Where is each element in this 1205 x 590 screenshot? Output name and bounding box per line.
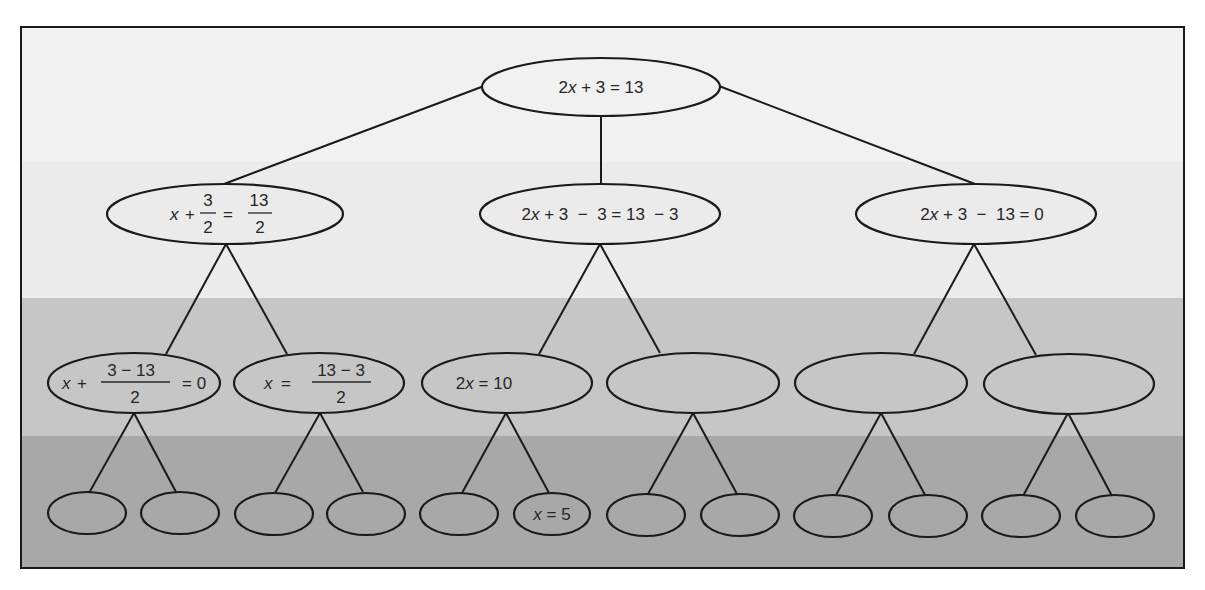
node-level3-6: x = 5 bbox=[514, 493, 590, 535]
node-label-op: = bbox=[281, 374, 291, 393]
node-root: 2x + 3 = 13 bbox=[482, 58, 720, 116]
node-level3-3 bbox=[235, 493, 313, 535]
fraction-denominator: 2 bbox=[203, 218, 212, 237]
fraction-denominator: 2 bbox=[255, 218, 264, 237]
fraction-numerator: 3 bbox=[203, 191, 212, 210]
node-label-suffix: = 0 bbox=[182, 374, 206, 393]
node-level3-9 bbox=[794, 495, 872, 537]
fraction-numerator: 13 − 3 bbox=[317, 361, 365, 380]
node-label-op: + bbox=[185, 205, 195, 224]
node-level3-11 bbox=[982, 495, 1060, 537]
node-label: 2x + 3 − 13 = 0 bbox=[920, 205, 1043, 224]
node-level3-12 bbox=[1076, 495, 1154, 537]
node-level1-3: 2x + 3 − 13 = 0 bbox=[856, 184, 1096, 244]
node-ellipse-empty bbox=[795, 353, 967, 413]
node-level3-4 bbox=[327, 493, 405, 535]
node-ellipse-empty bbox=[607, 353, 779, 413]
node-level3-8 bbox=[701, 494, 779, 536]
node-label-var: x bbox=[263, 374, 273, 393]
node-level1-2: 2x + 3 − 3 = 13 − 3 bbox=[480, 184, 720, 244]
node-level2-5 bbox=[795, 353, 967, 413]
node-label: 2x + 3 = 13 bbox=[558, 78, 643, 97]
node-level2-6 bbox=[984, 354, 1154, 414]
fraction-denominator: 2 bbox=[130, 388, 139, 407]
node-label-op: + bbox=[77, 374, 87, 393]
fraction-numerator: 3 − 13 bbox=[107, 361, 155, 380]
node-label: 2x + 3 − 3 = 13 − 3 bbox=[522, 205, 679, 224]
node-level2-3: 2x = 10 bbox=[422, 353, 592, 413]
node-label: 2x = 10 bbox=[456, 374, 512, 393]
fraction-denominator: 2 bbox=[336, 388, 345, 407]
node-label-var: x bbox=[61, 374, 71, 393]
node-level2-1: x + 3 − 13 2 = 0 bbox=[48, 353, 220, 413]
fraction-numerator: 13 bbox=[250, 191, 269, 210]
node-level3-7 bbox=[607, 494, 685, 536]
node-label-var: x bbox=[169, 205, 179, 224]
equation-tree-diagram: 2x + 3 = 13 x + 3 2 = 13 2 2x + 3 − 3 = … bbox=[0, 0, 1205, 590]
node-level3-2 bbox=[141, 492, 219, 534]
node-level3-10 bbox=[889, 495, 967, 537]
node-level3-1 bbox=[48, 492, 126, 534]
node-label-eq: = bbox=[223, 205, 233, 224]
node-level2-2: x = 13 − 3 2 bbox=[234, 353, 404, 413]
node-level3-5 bbox=[420, 493, 498, 535]
node-label: x = 5 bbox=[532, 505, 570, 524]
node-ellipse-empty bbox=[984, 354, 1154, 414]
node-level2-4 bbox=[607, 353, 779, 413]
node-level1-1: x + 3 2 = 13 2 bbox=[107, 184, 343, 244]
